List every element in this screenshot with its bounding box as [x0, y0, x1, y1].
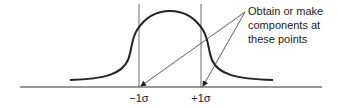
minus-sigma-label: −1σ: [129, 92, 149, 104]
normal-distribution-diagram: Obtain or make components at these point…: [0, 0, 338, 108]
annotation-line-3: these points: [248, 33, 308, 45]
bell-curve: [70, 11, 273, 80]
annotation-line-2: components at: [248, 19, 320, 31]
annotation-line-1: Obtain or make: [248, 5, 323, 17]
plus-sigma-label: +1σ: [191, 92, 211, 104]
